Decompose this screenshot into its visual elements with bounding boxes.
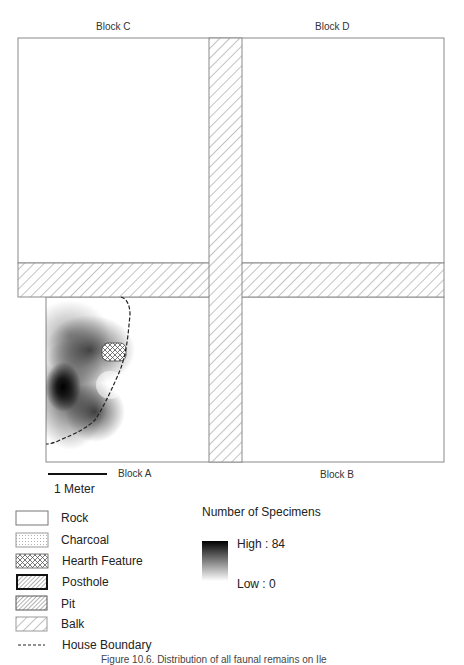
legend-swatch-posthole: [17, 575, 47, 589]
legend-label-balk: Balk: [61, 617, 84, 631]
legend-swatch-balk: [16, 617, 47, 631]
figure-caption: Figure 10.6. Distribution of all faunal …: [101, 654, 327, 665]
block-b-label: Block B: [320, 469, 354, 480]
legend-label-hearth: Hearth Feature: [62, 554, 143, 568]
legend-swatch-charcoal: [16, 533, 48, 547]
legend-swatch-rock: [16, 511, 48, 525]
density-ramp: [202, 541, 228, 581]
legend-label-house-boundary: House Boundary: [62, 638, 151, 652]
density-legend-title: Number of Specimens: [202, 505, 321, 519]
block-d-label: Block D: [315, 21, 349, 32]
scale-bar-label: 1 Meter: [54, 482, 95, 496]
legend-label-pit: Pit: [61, 597, 75, 611]
hearth-feature: [102, 343, 126, 361]
block-c-label: Block C: [96, 21, 130, 32]
legend-label-charcoal: Charcoal: [61, 533, 109, 547]
block-a-label: Block A: [118, 468, 151, 479]
legend-swatch-pit: [16, 596, 47, 610]
density-low-label: Low : 0: [237, 577, 276, 591]
legend-label-posthole: Posthole: [62, 575, 109, 589]
legend-label-rock: Rock: [61, 511, 88, 525]
density-high-label: High : 84: [237, 537, 285, 551]
balk-vertical: [209, 38, 242, 462]
legend-swatch-hearth: [16, 554, 48, 568]
